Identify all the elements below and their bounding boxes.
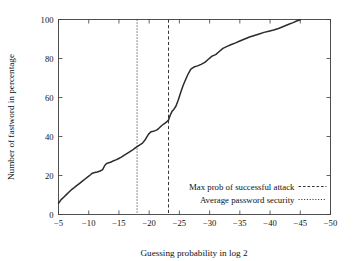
y-tick-label-2: 40 xyxy=(45,132,54,142)
x-tick-label-3: −20 xyxy=(142,218,155,228)
x-axis-title: Guessing probability in log 2 xyxy=(140,248,248,258)
y-axis-title: Number of fastword in percentage xyxy=(6,54,16,180)
x-tick-label-6: −35 xyxy=(233,218,246,228)
x-tick-label-4: −25 xyxy=(173,218,186,228)
x-tick-label-8: −45 xyxy=(294,218,307,228)
x-tick-label-0: −5 xyxy=(54,218,63,228)
x-tick-label-2: −15 xyxy=(112,218,125,228)
cumulative-distribution-chart: −5−10−15−20−25−30−35−40−45−50 0204060801… xyxy=(0,0,353,261)
y-tick-label-0: 0 xyxy=(49,210,53,220)
x-tick-label-1: −10 xyxy=(82,218,95,228)
x-tick-label-7: −40 xyxy=(263,218,276,228)
y-tick-label-3: 60 xyxy=(45,93,54,103)
legend-label-1: Average password security xyxy=(200,195,295,205)
x-tick-label-9: −50 xyxy=(324,218,337,228)
chart-figure: −5−10−15−20−25−30−35−40−45−50 0204060801… xyxy=(0,0,353,261)
x-tick-label-5: −30 xyxy=(203,218,216,228)
legend-label-0: Max prob of successful attack xyxy=(189,182,295,192)
y-tick-label-4: 80 xyxy=(45,54,54,64)
y-tick-label-1: 20 xyxy=(45,171,54,181)
y-tick-label-5: 100 xyxy=(41,15,54,25)
